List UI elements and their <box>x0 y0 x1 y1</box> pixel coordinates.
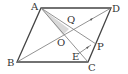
label-o: O <box>57 37 65 48</box>
segment-ep <box>78 45 91 54</box>
label-b: B <box>7 57 14 68</box>
arrow-icon <box>90 18 93 21</box>
diagonal-bd <box>17 8 111 62</box>
label-c: C <box>88 62 96 73</box>
label-d: D <box>112 3 120 14</box>
shaded-triangle <box>41 8 69 35</box>
label-q: Q <box>67 14 75 25</box>
label-e: E <box>72 51 79 62</box>
geometry-diagram: A B C D O Q P E <box>0 0 128 74</box>
label-p: P <box>97 41 104 52</box>
label-a: A <box>30 1 39 12</box>
